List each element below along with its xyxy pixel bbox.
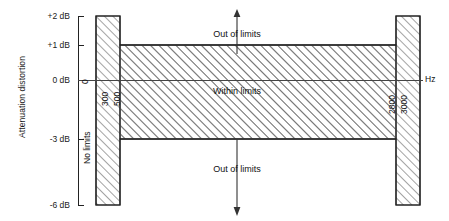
x-axis-label-3000: 3000 bbox=[399, 95, 409, 114]
x-axis-label-500: 500 bbox=[112, 92, 122, 106]
limit-mask-shape bbox=[78, 16, 418, 206]
x-axis-label-origin: 0 bbox=[80, 79, 90, 84]
x-axis-label-2800: 2800 bbox=[387, 95, 397, 114]
y-axis-label-plus2: +2 dB bbox=[14, 11, 70, 21]
y-axis-label-minus6: -6 dB bbox=[14, 200, 70, 210]
y-axis-label-zero: 0 dB bbox=[14, 75, 70, 85]
region-label-out-of-limits-top: Out of limits bbox=[213, 29, 261, 39]
plot-area: Out of limits Within limits Out of limit… bbox=[78, 16, 418, 206]
region-label-within-limits: Within limits bbox=[213, 86, 261, 96]
x-axis-unit-label: Hz bbox=[425, 74, 435, 84]
region-label-out-of-limits-bottom: Out of limits bbox=[213, 164, 261, 174]
attenuation-distortion-mask-figure: Attenuation distortion +2 dB +1 dB 0 dB … bbox=[0, 0, 449, 221]
mask-left-column bbox=[96, 16, 120, 205]
y-axis-label-plus1: +1 dB bbox=[14, 40, 70, 50]
x-axis-label-300: 300 bbox=[100, 92, 110, 106]
y-axis-label-minus3: -3 dB bbox=[14, 134, 70, 144]
zero-db-baseline bbox=[78, 80, 423, 81]
region-label-no-limits: No limits bbox=[82, 131, 92, 164]
out-of-limits-bottom-arrow bbox=[231, 139, 243, 217]
